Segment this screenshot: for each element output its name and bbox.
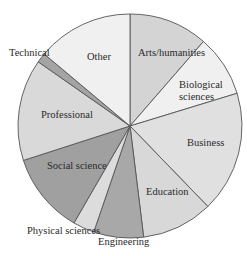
label-biological-line1: Biological bbox=[179, 79, 223, 91]
label-business: Business bbox=[187, 137, 224, 149]
label-arts-humanities: Arts/humanities bbox=[138, 47, 205, 59]
label-biological-line2: sciences bbox=[179, 91, 214, 103]
label-professional: Professional bbox=[41, 109, 93, 121]
label-physical-sciences: Physical sciences bbox=[27, 225, 100, 237]
label-other: Other bbox=[87, 51, 111, 63]
label-engineering: Engineering bbox=[98, 236, 149, 248]
label-education: Education bbox=[146, 186, 189, 198]
label-technical: Technical bbox=[9, 47, 50, 59]
label-social-science: Social science bbox=[47, 160, 107, 172]
pie-chart bbox=[0, 0, 247, 256]
